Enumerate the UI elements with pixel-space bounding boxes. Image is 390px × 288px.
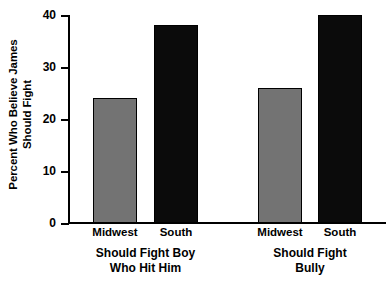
y-tick-0 — [61, 223, 69, 225]
plot-area: 010203040 — [68, 15, 368, 223]
y-tick-label-30: 30 — [16, 61, 56, 73]
group-label-2-line-2: Bully — [220, 261, 390, 276]
y-tick-label-0: 0 — [16, 217, 56, 229]
group-label-2-line-1: Should Fight — [220, 246, 390, 261]
group-label-2: Should FightBully — [220, 246, 390, 276]
group-label-1-line-1: Should Fight Boy — [56, 246, 236, 261]
x-axis-label-south-group-2: South — [300, 226, 380, 239]
group-label-1: Should Fight BoyWho Hit Him — [56, 246, 236, 276]
bar-chart-figure: Percent Who Believe James Should Fight 0… — [0, 0, 390, 288]
bar-midwest-group-2 — [258, 88, 302, 223]
y-tick-label-20: 20 — [16, 113, 56, 125]
group-label-1-line-2: Who Hit Him — [56, 261, 236, 276]
y-tick-label-10: 10 — [16, 165, 56, 177]
y-tick-40 — [61, 15, 69, 17]
bar-south-group-1 — [154, 25, 198, 223]
y-tick-20 — [61, 119, 69, 121]
x-axis-label-south-group-1: South — [136, 226, 216, 239]
y-tick-label-40: 40 — [16, 9, 56, 21]
bar-midwest-group-1 — [93, 98, 137, 223]
y-tick-10 — [61, 171, 69, 173]
bar-south-group-2 — [318, 15, 362, 223]
y-tick-30 — [61, 67, 69, 69]
